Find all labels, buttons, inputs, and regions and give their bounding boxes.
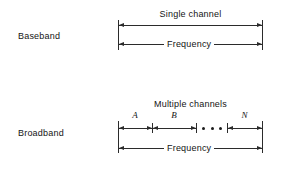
broadband-segment-n-right-arrowhead [257,126,262,130]
baseband-axis-caption: Frequency [164,39,214,49]
broadband-frequency-left-arrowhead [119,146,124,150]
baseband-channel-caption: Single channel [118,9,263,19]
broadband-segment-label-b: B [152,110,196,120]
broadband-segment-label-a: A [118,110,152,120]
baseband-frequency-left-arrowhead [119,42,124,46]
broadband-segment-b-right-arrowhead [191,126,196,130]
row-label-broadband: Broadband [18,128,64,138]
baseband-channel-right-tick [262,20,263,34]
broadband-frequency-right-tick [262,135,263,153]
broadband-segment-a-left-arrowhead [119,126,124,130]
broadband-segment-label-n: N [227,110,262,120]
baseband-channel-left-arrowhead [119,23,124,27]
broadband-channel-tick-end [262,121,263,135]
row-label-baseband: Baseband [18,31,60,41]
broadband-segment-n-left-arrowhead [228,126,233,130]
baseband-channel-rule [119,25,262,26]
broadband-segment-ellipsis [202,127,222,130]
broadband-segment-a-right-arrowhead [147,126,152,130]
ellipsis-dot-3 [219,127,222,130]
broadband-channel-tick-b-ellipsis [196,123,197,133]
broadband-segment-b-left-arrowhead [153,126,158,130]
baseband-broadband-frequency-diagram: Baseband Single channel Frequency Broadb… [0,0,289,171]
broadband-frequency-left-tick [118,135,119,153]
ellipsis-dot-1 [202,127,205,130]
broadband-frequency-right-arrowhead [257,146,262,150]
broadband-axis-caption: Frequency [164,143,214,153]
baseband-frequency-right-arrowhead [257,42,262,46]
baseband-channel-right-arrowhead [257,23,262,27]
ellipsis-dot-2 [211,127,214,130]
baseband-frequency-right-tick [262,34,263,50]
broadband-channel-caption: Multiple channels [118,99,263,109]
broadband-segment-b-rule [153,128,196,129]
